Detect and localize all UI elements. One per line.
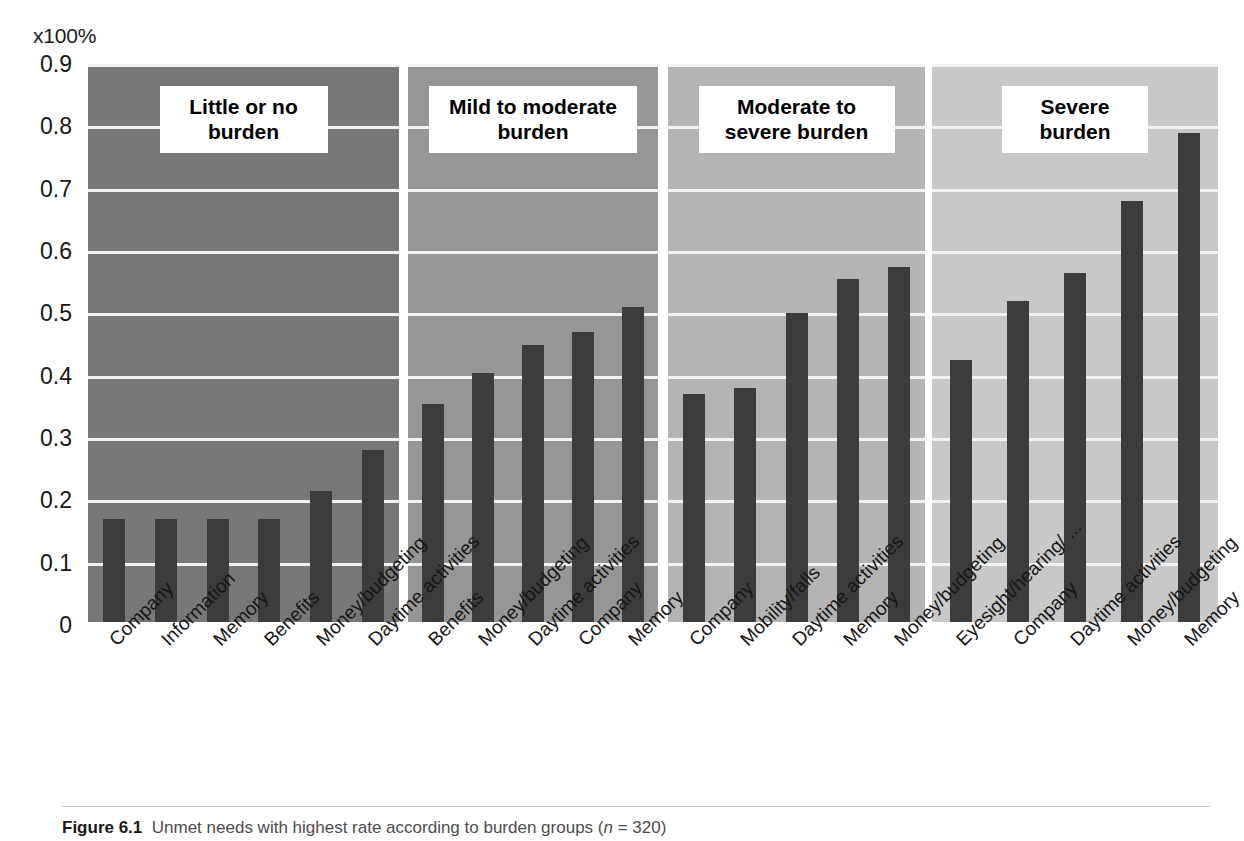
gridline [88, 376, 399, 379]
gridline [932, 64, 1218, 67]
gridline [88, 313, 399, 316]
gridline [88, 189, 399, 192]
gridline [88, 563, 399, 566]
gridline [668, 64, 925, 67]
gridline [408, 251, 658, 254]
y-axis-tick-0-1: 0.1 [40, 549, 72, 576]
y-axis-tick-0-2: 0.2 [40, 487, 72, 514]
bar [888, 267, 910, 625]
y-axis-tick-0-6: 0.6 [40, 238, 72, 265]
gridline [88, 438, 399, 441]
bar [622, 307, 644, 625]
y-axis-tick-0-3: 0.3 [40, 425, 72, 452]
gridline [932, 189, 1218, 192]
y-axis: 00.10.20.30.40.50.60.70.80.9 [0, 40, 88, 650]
gridline [668, 251, 925, 254]
panel-title-line1: Little or no [170, 94, 318, 119]
x-axis-labels: CompanyInformationMemoryBenefitsMoney/bu… [0, 629, 1223, 819]
bar [103, 519, 125, 625]
figure-caption: Figure 6.1 Unmet needs with highest rate… [62, 818, 1202, 838]
gridline [668, 189, 925, 192]
y-axis-tick-0-9: 0.9 [40, 51, 72, 78]
gridline [88, 251, 399, 254]
y-axis-tick-0-4: 0.4 [40, 362, 72, 389]
gridline [88, 64, 399, 67]
caption-n-symbol: n [603, 818, 612, 837]
panel-title-line2: burden [439, 119, 627, 144]
panel-title-line1: Moderate to [709, 94, 885, 119]
bar [1178, 133, 1200, 625]
panel-title-4: Severeburden [1002, 86, 1148, 153]
panel-title-line2: burden [170, 119, 318, 144]
panel-title-line1: Mild to moderate [439, 94, 627, 119]
gridline [408, 189, 658, 192]
caption-divider [62, 806, 1210, 807]
bar [472, 373, 494, 625]
panel-title-2: Mild to moderateburden [429, 86, 637, 153]
panel-title-1: Little or noburden [160, 86, 328, 153]
gridline [88, 500, 399, 503]
gridline [408, 64, 658, 67]
panel-title-line2: severe burden [709, 119, 885, 144]
bar [683, 394, 705, 625]
panel-title-line1: Severe [1012, 94, 1138, 119]
caption-number: Figure 6.1 [62, 818, 142, 837]
caption-tail: = 320) [613, 818, 666, 837]
y-axis-tick-0-5: 0.5 [40, 300, 72, 327]
gridline [408, 313, 658, 316]
y-axis-tick-0-8: 0.8 [40, 113, 72, 140]
caption-text: Unmet needs with highest rate according … [152, 818, 604, 837]
panel-title-3: Moderate tosevere burden [699, 86, 895, 153]
gridline [932, 251, 1218, 254]
y-axis-tick-0-7: 0.7 [40, 175, 72, 202]
bar [1064, 273, 1086, 625]
panel-title-line2: burden [1012, 119, 1138, 144]
